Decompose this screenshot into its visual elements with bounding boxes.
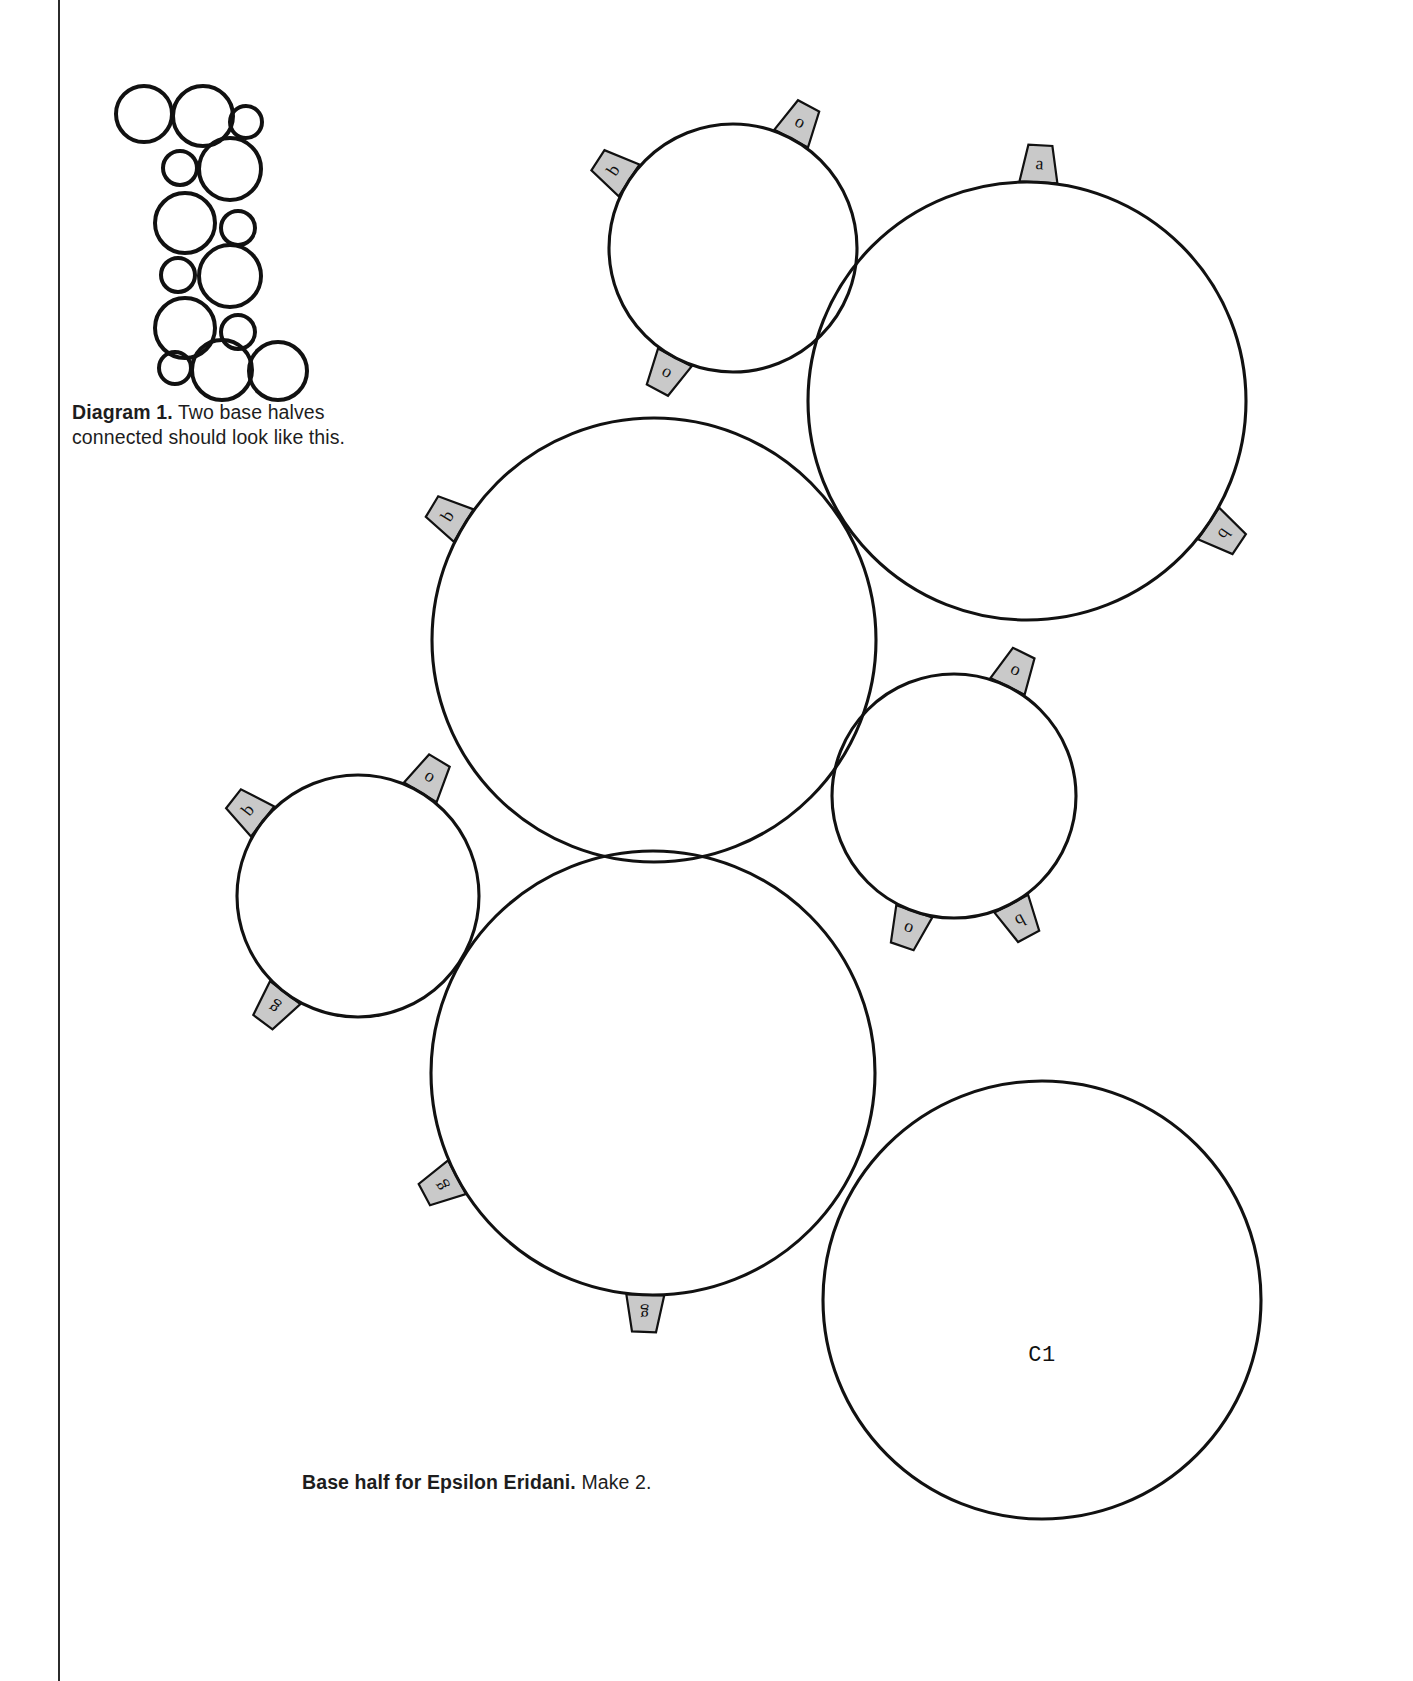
circle-large-center: b <box>426 418 876 862</box>
circle-large-bottom-center: gg <box>419 851 875 1332</box>
pattern-caption-text: Make 2. <box>576 1471 652 1493</box>
piece-outline <box>432 418 876 862</box>
circle-small-top: obo <box>591 100 857 396</box>
pattern-caption-lead: Base half for Epsilon Eridani. <box>302 1471 576 1493</box>
circle-large-bottom-right: C1 <box>823 1081 1261 1519</box>
piece-outline <box>832 674 1076 918</box>
piece-outline <box>431 851 875 1295</box>
pattern-drawing: oboabboboobgggC1 <box>0 0 1413 1681</box>
circle-large-top-right: ab <box>808 145 1246 620</box>
piece-outline <box>823 1081 1261 1519</box>
piece-outline <box>237 775 479 1017</box>
glue-tab-letter: g <box>640 1304 650 1324</box>
pattern-sheet-page: Diagram 1. Two base halves connected sho… <box>0 0 1413 1681</box>
glue-tab-letter: a <box>1035 153 1044 173</box>
pattern-caption: Base half for Epsilon Eridani. Make 2. <box>302 1470 902 1495</box>
piece-outline <box>808 182 1246 620</box>
piece-label: C1 <box>1028 1343 1055 1368</box>
circle-small-left: obg <box>226 754 479 1029</box>
